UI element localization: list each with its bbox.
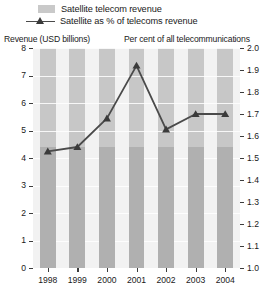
left-tick-label: 6: [2, 99, 26, 108]
x-tick: [166, 268, 167, 272]
legend-item-line: Satellite as % of telecoms revenue: [26, 15, 198, 27]
line-path: [48, 66, 225, 152]
right-tick-label: 1.3: [247, 198, 259, 207]
right-tick-label: 1.8: [247, 88, 259, 97]
left-tick-label: 0: [2, 264, 26, 273]
right-tick-label: 1.6: [247, 132, 259, 141]
x-tick-label-2000: 2000: [92, 276, 122, 285]
left-tick-label: 5: [2, 126, 26, 135]
data-point-marker-2001: [133, 62, 141, 69]
x-tick: [196, 268, 197, 272]
right-tick: [240, 158, 244, 159]
chart-figure: Satellite telecom revenue Satellite as %…: [0, 0, 265, 293]
right-tick-label: 1.7: [247, 110, 259, 119]
right-tick-label: 1.5: [247, 154, 259, 163]
right-tick: [240, 202, 244, 203]
right-tick: [240, 48, 244, 49]
left-tick: [29, 213, 33, 214]
left-tick-label: 1: [2, 236, 26, 245]
left-tick-label: 4: [2, 154, 26, 163]
bar-swatch-icon: [38, 5, 55, 13]
left-tick: [29, 76, 33, 77]
line-triangle-marker-icon: [26, 16, 55, 26]
right-tick: [240, 224, 244, 225]
right-tick: [240, 268, 244, 269]
legend-label-bar: Satellite telecom revenue: [61, 4, 162, 14]
x-tick-label-2001: 2001: [122, 276, 152, 285]
left-tick-label: 3: [2, 181, 26, 190]
right-tick-label: 1.0: [247, 264, 259, 273]
left-tick-label: 7: [2, 71, 26, 80]
x-tick-label-1998: 1998: [33, 276, 63, 285]
right-tick-label: 1.9: [247, 66, 259, 75]
right-tick: [240, 136, 244, 137]
x-tick-label-1999: 1999: [62, 276, 92, 285]
left-tick-label: 8: [2, 44, 26, 53]
left-tick: [29, 186, 33, 187]
data-point-marker-2002: [162, 126, 170, 133]
left-tick: [29, 268, 33, 269]
left-tick: [29, 131, 33, 132]
left-tick: [29, 103, 33, 104]
x-tick-label-2003: 2003: [181, 276, 211, 285]
left-tick-label: 2: [2, 209, 26, 218]
x-tick-label-2002: 2002: [151, 276, 181, 285]
right-tick: [240, 92, 244, 93]
left-tick: [29, 241, 33, 242]
right-tick: [240, 180, 244, 181]
plot-area: [33, 48, 240, 268]
right-tick-label: 1.1: [247, 242, 259, 251]
right-tick: [240, 114, 244, 115]
right-tick: [240, 70, 244, 71]
right-tick-label: 1.2: [247, 220, 259, 229]
left-tick: [29, 48, 33, 49]
data-point-marker-2000: [103, 115, 111, 122]
right-tick-label: 1.4: [247, 176, 259, 185]
legend-item-bar: Satellite telecom revenue: [38, 3, 162, 15]
legend-label-line: Satellite as % of telecoms revenue: [60, 16, 198, 26]
right-axis-caption: Per cent of all telecommunications: [124, 34, 250, 44]
x-tick: [107, 268, 108, 272]
right-tick: [240, 246, 244, 247]
x-tick-label-2004: 2004: [210, 276, 240, 285]
x-tick: [137, 268, 138, 272]
line-series-layer: [33, 48, 240, 268]
x-tick: [225, 268, 226, 272]
x-tick: [48, 268, 49, 272]
chart-legend: Satellite telecom revenue Satellite as %…: [0, 2, 265, 28]
left-tick: [29, 158, 33, 159]
left-axis-caption: Revenue (USD billions): [4, 34, 90, 44]
right-tick-label: 2.0: [247, 44, 259, 53]
x-tick: [77, 268, 78, 272]
